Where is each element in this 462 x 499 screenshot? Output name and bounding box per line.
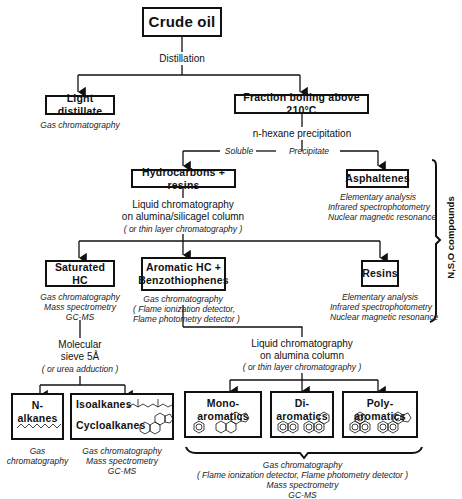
node-resins: Resins xyxy=(361,260,399,287)
node-mono-aromatics: Mono-aromatics xyxy=(184,391,262,438)
step-precipitate: Precipitate xyxy=(278,146,340,157)
step-lc2-line1: Liquid chromatography xyxy=(247,338,357,351)
mono-aromatic-structure-icon xyxy=(190,411,260,437)
step-n-hexane: n-hexane precipitation xyxy=(252,128,352,141)
step-distillation: Distillation xyxy=(142,53,222,66)
step-lc1-line1: Liquid chromatography xyxy=(113,199,253,212)
step-sieve-note: ( or urea adduction ) xyxy=(30,364,130,375)
node-light-distillate: Light distillate xyxy=(45,95,115,115)
cycloalkane-structure-icon xyxy=(134,409,174,439)
step-lc2-note: ( or thin layer chromatography ) xyxy=(242,362,362,373)
node-crude-oil: Crude oil xyxy=(142,7,222,37)
node-hydrocarbons-resins: Hydrocarbons + resins xyxy=(131,169,236,188)
step-soluble: Soluble xyxy=(222,146,256,157)
node-saturated-hc: Saturated HC xyxy=(45,260,115,287)
step-sieve-line2: sieve 5Å xyxy=(40,351,120,364)
poly-aromatic-structure-icon xyxy=(348,411,418,437)
step-lc2-line2: on alumina column xyxy=(247,350,357,363)
di-aromatic-structure-icon xyxy=(276,411,334,437)
node-n-alkanes-label: N-alkanes xyxy=(13,399,62,424)
node-aromatic-hc: Aromatic HC + Benzothiophenes xyxy=(141,257,226,291)
n-alkane-structure-icon xyxy=(17,422,61,430)
node-iso-cyclo-alkanes: Isoalkanes Cycloalkanes xyxy=(70,393,174,440)
step-lc1-note: ( or thin layer chromatography ) xyxy=(113,224,253,235)
method-saturated-3: GC-MS xyxy=(30,312,130,323)
node-aromatic-hc-line1: Aromatic HC + xyxy=(146,261,221,274)
method-aromatic-3: Flame photometry detector ) xyxy=(133,314,233,325)
method-light-distillate: Gas chromatography xyxy=(30,120,130,131)
method-aromatics-4: GC-MS xyxy=(200,490,405,499)
method-asphaltenes-3: Nuclear magnetic resonance xyxy=(328,212,428,223)
node-isoalkanes-label: Isoalkanes xyxy=(76,398,132,411)
method-iso-cyclo-3: GC-MS xyxy=(72,466,172,477)
node-poly-aromatics: Poly-aromatics xyxy=(342,391,418,438)
node-aromatic-hc-line2: Benzothiophenes xyxy=(138,274,229,287)
node-fraction-boiling: Fraction boiling above 210°C xyxy=(234,94,369,114)
node-di-aromatics: Di-aromatics xyxy=(270,391,334,438)
step-sieve-line1: Molecular xyxy=(40,339,120,352)
method-n-alkanes-2: chromatography xyxy=(0,456,75,467)
step-lc1-line2: on alumina/silicagel column xyxy=(113,211,253,224)
node-asphaltenes: Asphaltenes xyxy=(346,169,409,188)
node-n-alkanes: N-alkanes xyxy=(11,393,64,440)
nso-compounds-label: N,S,O compounds xyxy=(445,188,456,288)
method-resins-3: Nuclear magnetic resonance xyxy=(330,312,430,323)
